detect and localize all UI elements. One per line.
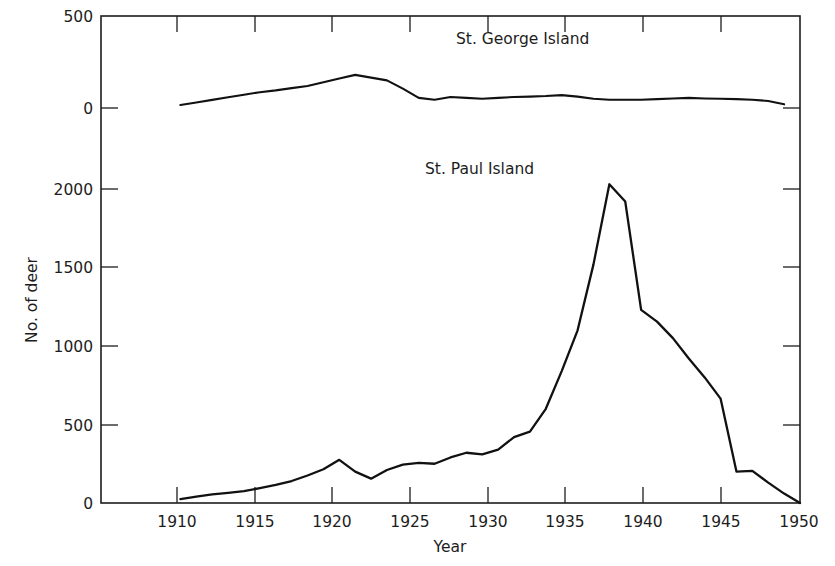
y-axis-labels-lower: 2000 1500 1000 500 0: [54, 181, 93, 513]
y-tick-label-lower-500: 500: [63, 417, 93, 435]
y-tick-label-upper-500: 500: [63, 8, 93, 26]
x-tick-label-1940: 1940: [623, 513, 662, 531]
y-tick-label-lower-0: 0: [83, 495, 93, 513]
x-tick-label-1945: 1945: [701, 513, 740, 531]
axis-frame: [101, 16, 800, 503]
y-tick-label-lower-2000: 2000: [54, 181, 93, 199]
data-line-st-george-island: [180, 75, 784, 105]
x-axis-title: Year: [433, 538, 467, 556]
data-line-st-paul-island: [180, 184, 800, 503]
x-tick-label-1915: 1915: [235, 513, 274, 531]
x-axis-labels: 1910 1915 1920 1925 1930 1935 1940 1945 …: [157, 513, 818, 531]
x-tick-label-1925: 1925: [390, 513, 429, 531]
x-tick-label-1920: 1920: [312, 513, 351, 531]
x-tick-label-1950: 1950: [779, 513, 818, 531]
right-axis-ticks: [783, 108, 800, 425]
x-tick-label-1935: 1935: [545, 513, 584, 531]
series-label-st-george-island: St. George Island: [456, 30, 589, 48]
x-tick-label-1910: 1910: [157, 513, 196, 531]
chart-figure: 500 0 2000 1500 1000 500 0 1910 1915 192…: [0, 0, 835, 566]
y-tick-label-lower-1000: 1000: [54, 338, 93, 356]
y-axis-labels-upper: 500 0: [63, 8, 93, 118]
y-axis-title: No. of deer: [23, 256, 41, 342]
y-tick-label-upper-0: 0: [83, 100, 93, 118]
y-tick-label-lower-1500: 1500: [54, 259, 93, 277]
plot-border: [101, 16, 800, 503]
left-axis-ticks: [101, 108, 118, 425]
deer-population-chart: 500 0 2000 1500 1000 500 0 1910 1915 192…: [0, 0, 835, 566]
top-axis-ticks: [177, 16, 721, 32]
series-label-st-paul-island: St. Paul Island: [425, 160, 534, 178]
x-tick-label-1930: 1930: [468, 513, 507, 531]
